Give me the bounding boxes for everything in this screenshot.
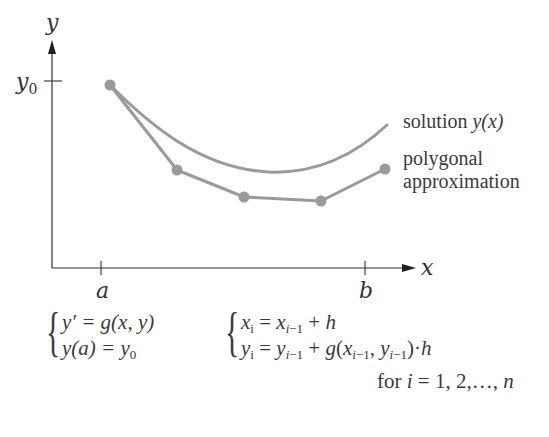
marker-point-3	[316, 196, 327, 207]
solution-label: solution y(x)	[403, 110, 504, 133]
ivp-equation-1-text: y′ = g(x, y)	[62, 310, 154, 334]
euler-brace: {	[225, 305, 239, 359]
ivp-equation-1: y′ = g(x, y)	[62, 309, 154, 335]
y-axis-arrow-icon	[48, 40, 56, 54]
polygonal-approximation-line	[110, 85, 385, 201]
polygonal-label-line1: polygonal	[403, 147, 483, 170]
ivp-equation-2-main: y(a) = y	[62, 336, 130, 360]
x-axis-label: x	[421, 255, 434, 280]
solution-curve	[110, 85, 387, 172]
y0-label-sub: 0	[28, 81, 37, 97]
x-axis-arrow-icon	[402, 264, 416, 272]
marker-point-0	[105, 80, 116, 91]
axes: y x y0 a b	[15, 10, 434, 303]
polygonal-label-line2: approximation	[403, 170, 520, 193]
ivp-equation-2-sub: 0	[130, 347, 137, 362]
tick-label-b: b	[359, 278, 373, 303]
euler-range: for i = 1, 2,…, n	[377, 368, 514, 394]
ivp-equation-2: y(a) = y0	[62, 335, 136, 361]
solution-label-text: solution	[403, 110, 472, 132]
marker-point-2	[239, 192, 250, 203]
tick-label-a: a	[96, 278, 109, 303]
euler-equation-1: xi = xi−1 + h	[241, 309, 336, 335]
marker-point-4	[380, 164, 391, 175]
marker-point-1	[172, 165, 183, 176]
solution-label-math: y(x)	[470, 110, 503, 133]
ivp-brace: {	[46, 305, 60, 359]
y-axis-label: y	[45, 10, 59, 35]
y0-label-main: y	[15, 69, 29, 94]
euler-equation-2: yi = yi−1 + g(xi−1, yi−1)·h	[241, 335, 432, 361]
y0-label: y0	[15, 69, 37, 97]
